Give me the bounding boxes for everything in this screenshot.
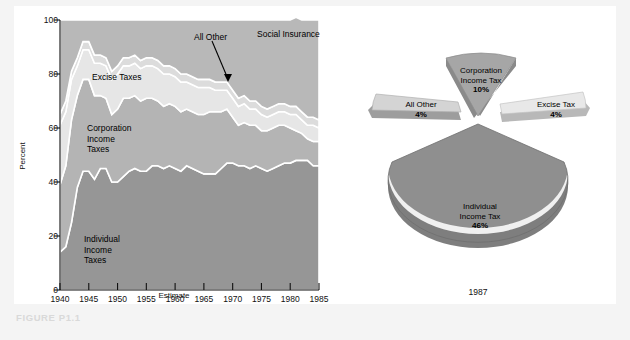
area-label-individual: Individual Income Taxes xyxy=(84,234,120,266)
area-band-individual-income-taxes xyxy=(60,160,319,290)
figure-caption: FIGURE P1.1 xyxy=(16,312,81,323)
area-label-corporation-line2: Income xyxy=(87,134,131,145)
area-y-tick-20: 20 xyxy=(36,231,58,241)
pie-label-excise: Excise Tax 4% xyxy=(518,100,594,119)
pie-label-corporation-line1: Corporation xyxy=(438,66,524,76)
figure-page: Percent Estimate 020406080100 1940194519… xyxy=(0,0,630,340)
pie-label-individual-pct: 46% xyxy=(472,221,488,230)
area-y-axis-label: Percent xyxy=(18,142,27,170)
area-label-individual-line2: Income xyxy=(84,245,120,256)
area-x-tick-1945: 1945 xyxy=(79,294,98,304)
area-x-ticks: 1940194519501955196019651970197519801985 xyxy=(14,294,334,306)
pie-label-all-other-name: All Other xyxy=(382,100,460,110)
pie-label-all-other-pct: 4% xyxy=(415,110,427,119)
area-y-tick-100: 100 xyxy=(36,15,58,25)
area-y-tick-60: 60 xyxy=(36,123,58,133)
area-x-tick-1965: 1965 xyxy=(194,294,213,304)
area-x-tick-1975: 1975 xyxy=(252,294,271,304)
pie-label-individual-line2: Income Tax xyxy=(436,212,524,222)
area-label-corporation: Corporation Income Taxes xyxy=(87,123,131,155)
area-chart: Percent Estimate 020406080100 1940194519… xyxy=(14,6,334,304)
pie-label-corporation-pct: 10% xyxy=(473,85,489,94)
pie-chart: All Other 4% Corporation Income Tax 10% … xyxy=(340,6,616,304)
area-y-ticks: 020406080100 xyxy=(34,6,58,304)
area-label-corporation-line3: Taxes xyxy=(87,144,131,155)
pie-label-individual-line1: Individual xyxy=(436,202,524,212)
area-label-excise: Excise Taxes xyxy=(92,72,141,83)
area-y-tick-80: 80 xyxy=(36,69,58,79)
area-label-all-other: All Other xyxy=(194,32,227,43)
pie-label-all-other: All Other 4% xyxy=(382,100,460,119)
pie-label-excise-pct: 4% xyxy=(550,110,562,119)
area-x-tick-1960: 1960 xyxy=(166,294,185,304)
area-label-corporation-line1: Corporation xyxy=(87,123,131,134)
area-chart-canvas xyxy=(14,6,334,304)
area-x-tick-1955: 1955 xyxy=(137,294,156,304)
area-x-tick-1970: 1970 xyxy=(223,294,242,304)
area-label-individual-line3: Taxes xyxy=(84,255,120,266)
area-x-tick-1950: 1950 xyxy=(108,294,127,304)
area-x-tick-1985: 1985 xyxy=(310,294,329,304)
pie-label-individual: Individual Income Tax 46% xyxy=(436,202,524,231)
pie-label-excise-name: Excise Tax xyxy=(518,100,594,110)
area-x-tick-1940: 1940 xyxy=(51,294,70,304)
area-x-tick-1980: 1980 xyxy=(281,294,300,304)
area-label-social-insurance: Social Insurance xyxy=(257,29,320,40)
pie-label-corporation-line2: Income Tax xyxy=(438,76,524,86)
area-y-tick-40: 40 xyxy=(36,177,58,187)
area-label-individual-line1: Individual xyxy=(84,234,120,245)
pie-label-corporation: Corporation Income Tax 10% xyxy=(438,66,524,95)
pie-chart-canvas xyxy=(340,6,616,304)
pie-year-label: 1987 xyxy=(340,287,616,297)
